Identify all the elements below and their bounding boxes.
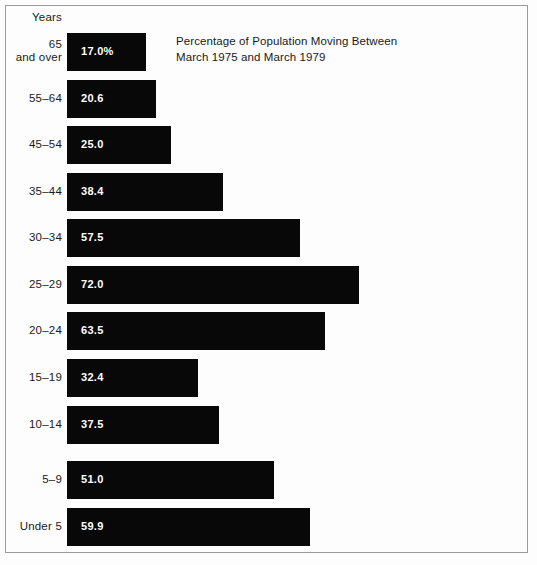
bar-category-label: 55–64	[0, 92, 62, 105]
bar-category-label-line: 35–44	[0, 185, 62, 198]
bar: 25.0	[67, 126, 171, 164]
bar-category-label: 5–9	[0, 473, 62, 486]
chart-screenshot: Years Percentage of Population Moving Be…	[0, 0, 537, 565]
bar: 17.0%	[67, 33, 146, 71]
bar: 32.4	[67, 359, 198, 397]
bar-category-label-line: 15–19	[0, 371, 62, 384]
bar-value-label: 57.5	[81, 231, 104, 243]
chart-title-line-2: March 1975 and March 1979	[176, 49, 476, 65]
bar-value-label: 32.4	[81, 371, 104, 383]
bar-category-label-line: 20–24	[0, 324, 62, 337]
bar-value-label: 72.0	[81, 278, 104, 290]
bar-category-label: 65and over	[0, 38, 62, 64]
bar: 59.9	[67, 508, 310, 546]
bar-value-label: 20.6	[81, 92, 104, 104]
bar-category-label-line: 30–34	[0, 231, 62, 244]
bar: 63.5	[67, 312, 325, 350]
bar: 38.4	[67, 173, 223, 211]
bar-value-label: 59.9	[81, 520, 104, 532]
bar: 57.5	[67, 219, 300, 257]
bar-value-label: 51.0	[81, 473, 104, 485]
bar: 72.0	[67, 266, 359, 304]
bar-value-label: 38.4	[81, 185, 104, 197]
bar-category-label-line: 25–29	[0, 278, 62, 291]
bar-category-label-line: 65	[0, 38, 62, 51]
bar-chart: Years Percentage of Population Moving Be…	[0, 0, 537, 565]
bar-category-label: 10–14	[0, 418, 62, 431]
bar-value-label: 25.0	[81, 138, 104, 150]
bar-value-label: 17.0%	[81, 45, 114, 57]
bar-category-label: 35–44	[0, 185, 62, 198]
bar-category-label-line: 5–9	[0, 473, 62, 486]
bar: 51.0	[67, 461, 274, 499]
bar: 20.6	[67, 80, 156, 118]
bar-category-label: 20–24	[0, 324, 62, 337]
bar-category-label: Under 5	[0, 520, 62, 533]
bar-category-label: 15–19	[0, 371, 62, 384]
bar-category-label-line: and over	[0, 51, 62, 64]
bar-value-label: 63.5	[81, 324, 104, 336]
chart-title-line-1: Percentage of Population Moving Between	[176, 33, 476, 49]
bar-category-label: 25–29	[0, 278, 62, 291]
axis-header-years: Years	[0, 11, 62, 23]
bar-category-label: 45–54	[0, 138, 62, 151]
bar-category-label: 30–34	[0, 231, 62, 244]
bar-value-label: 37.5	[81, 418, 104, 430]
bar: 37.5	[67, 406, 219, 444]
bar-category-label-line: 45–54	[0, 138, 62, 151]
chart-title: Percentage of Population Moving Between …	[176, 33, 476, 65]
bar-category-label-line: 10–14	[0, 418, 62, 431]
bar-category-label-line: Under 5	[0, 520, 62, 533]
bar-category-label-line: 55–64	[0, 92, 62, 105]
